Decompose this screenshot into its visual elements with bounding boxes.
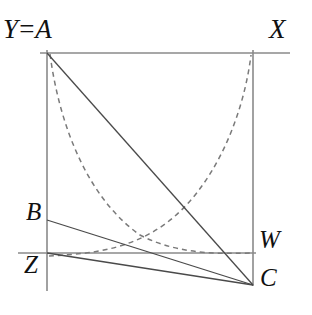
label-c: C xyxy=(260,265,277,290)
segment-a-to-c xyxy=(47,53,253,285)
label-w: W xyxy=(259,227,280,252)
label-y-equals-a: Y=A xyxy=(3,16,51,43)
segment-z-to-c xyxy=(47,253,253,285)
label-b: B xyxy=(26,199,41,224)
label-z: Z xyxy=(24,252,38,277)
label-x: X xyxy=(269,16,286,43)
ascending-dashed-curve xyxy=(49,55,251,256)
descending-dashed-curve xyxy=(50,54,252,253)
geometry-figure: Y=A X B Z W C xyxy=(0,0,312,315)
